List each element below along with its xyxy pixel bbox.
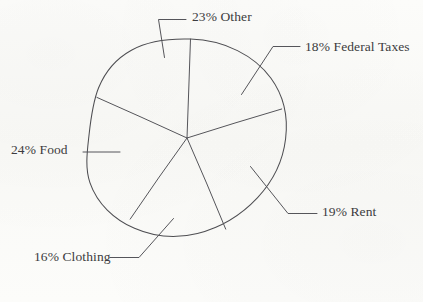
pie-label-clothing: 16% Clothing — [34, 250, 111, 264]
pie-chart-figure: 23% Other 18% Federal Taxes 19% Rent 16%… — [0, 0, 423, 302]
pie-label-rent: 19% Rent — [322, 205, 376, 219]
pie-label-federal-taxes: 18% Federal Taxes — [305, 40, 410, 54]
pie-label-food: 24% Food — [11, 143, 68, 157]
pie-label-other: 23% Other — [192, 10, 252, 24]
